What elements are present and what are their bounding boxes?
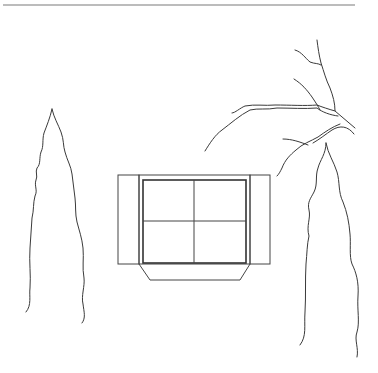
left-tree-left-outline	[26, 109, 52, 312]
branch-twig-top	[295, 50, 321, 65]
right-tree-left-outline	[300, 143, 326, 345]
branch-lower-right-top	[313, 127, 354, 143]
left-shutter	[118, 175, 139, 264]
left-tree-right-outline	[52, 109, 84, 323]
window-with-shutters	[118, 175, 270, 280]
right-tree-right-outline	[326, 143, 358, 357]
line-drawing-canvas	[0, 0, 378, 373]
branch-trunk-upper	[317, 40, 355, 128]
window-sill	[139, 264, 250, 280]
branch-lower-twig	[283, 139, 308, 145]
branch-long-left-underside	[205, 108, 338, 151]
right-cypress-tree	[300, 143, 358, 357]
right-shutter	[250, 175, 270, 264]
left-cypress-tree	[26, 109, 84, 323]
bare-tree-branch	[205, 40, 355, 176]
branch-lower-right	[277, 124, 340, 176]
